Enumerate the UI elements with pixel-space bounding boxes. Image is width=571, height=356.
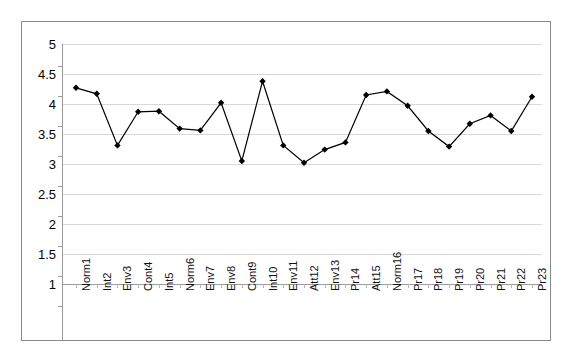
chart-figure: 11.522.533.544.55 Norm1Int2Env3Cont4Int5… <box>21 21 551 341</box>
y-tick-label: 3 <box>49 157 56 172</box>
data-point-marker <box>73 85 79 91</box>
data-point-marker <box>239 158 245 164</box>
y-tick-label: 4 <box>49 97 56 112</box>
y-tick-label: 1.5 <box>38 247 56 262</box>
y-tick-label: 3.5 <box>38 127 56 142</box>
line-series <box>62 22 542 340</box>
y-tick-label: 1 <box>49 277 56 292</box>
data-point-marker <box>529 94 535 100</box>
data-point-marker <box>135 109 141 115</box>
series-line <box>76 81 532 163</box>
y-tick-label: 2 <box>49 217 56 232</box>
y-tick-label: 5 <box>49 37 56 52</box>
data-point-marker <box>322 146 328 152</box>
data-point-marker <box>94 91 100 97</box>
data-point-marker <box>342 139 348 145</box>
data-point-marker <box>363 92 369 98</box>
plot-area: Norm1Int2Env3Cont4Int5Norm6Env7Env8Cont9… <box>62 22 542 340</box>
data-point-marker <box>259 78 265 84</box>
y-axis-tick-labels: 11.522.533.544.55 <box>22 22 60 340</box>
y-tick-label: 2.5 <box>38 187 56 202</box>
y-tick-label: 4.5 <box>38 67 56 82</box>
data-point-marker <box>114 142 120 148</box>
